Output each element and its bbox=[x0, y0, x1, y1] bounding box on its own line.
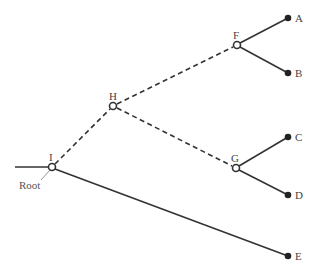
root-pointer-line bbox=[41, 170, 50, 180]
node-F bbox=[234, 42, 241, 49]
label-C: C bbox=[295, 131, 302, 143]
leaf-D bbox=[285, 192, 292, 199]
label-D: D bbox=[295, 189, 303, 201]
edge-I-E bbox=[55, 169, 288, 256]
label-I: I bbox=[49, 151, 53, 163]
leaf-A bbox=[285, 15, 292, 22]
leaf-C bbox=[285, 134, 292, 141]
edge-I-H bbox=[55, 109, 110, 164]
label-G: G bbox=[231, 152, 239, 164]
label-F: F bbox=[233, 29, 239, 41]
node-I bbox=[49, 164, 56, 171]
label-H: H bbox=[109, 90, 117, 102]
edge-G-C bbox=[239, 137, 288, 166]
label-B: B bbox=[295, 67, 302, 79]
edge-H-F bbox=[117, 47, 233, 104]
leaf-B bbox=[285, 70, 292, 77]
edge-G-D bbox=[239, 170, 288, 195]
leaf-E bbox=[285, 253, 292, 260]
label-A: A bbox=[295, 12, 303, 24]
label-E: E bbox=[295, 250, 302, 262]
node-G bbox=[233, 165, 240, 172]
edge-F-A bbox=[240, 18, 288, 43]
edge-F-B bbox=[240, 47, 288, 73]
node-H bbox=[110, 103, 117, 110]
phylogenetic-tree: I H F G A B C D E Root bbox=[0, 0, 315, 276]
root-label: Root bbox=[19, 179, 40, 191]
edge-H-G bbox=[117, 108, 232, 166]
